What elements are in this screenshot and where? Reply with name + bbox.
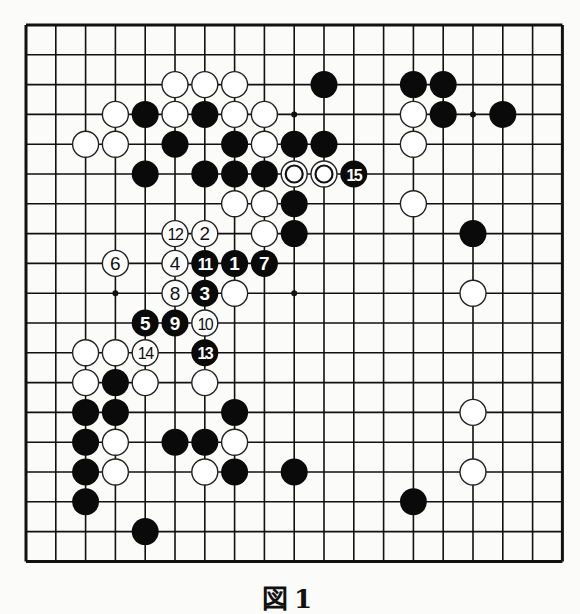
move-number: 13 — [197, 345, 213, 362]
white-stone — [251, 221, 277, 247]
black-stone — [72, 429, 99, 456]
numbered-move-6: 6 — [102, 250, 128, 276]
white-stone — [251, 131, 277, 157]
white-stone — [73, 370, 99, 396]
move-number: 7 — [259, 253, 270, 274]
move-number: 5 — [140, 313, 151, 334]
black-stone — [132, 518, 159, 545]
numbered-move-8: 8 — [162, 280, 188, 306]
white-stone — [102, 459, 128, 485]
black-stone — [221, 131, 248, 158]
black-stone — [221, 459, 248, 486]
black-stone — [191, 161, 218, 188]
numbered-move-12: 12 — [162, 221, 188, 247]
move-number: 9 — [170, 313, 181, 334]
marked-white-stone — [311, 161, 337, 187]
move-number: 3 — [200, 283, 211, 304]
numbered-move-3: 3 — [191, 280, 218, 307]
black-stone — [281, 190, 308, 217]
move-number: 1 — [229, 253, 240, 274]
white-stone — [162, 101, 188, 127]
black-stone — [430, 101, 457, 128]
numbered-move-10: 10 — [192, 310, 218, 336]
numbered-move-14: 14 — [132, 340, 158, 366]
black-stone — [400, 71, 427, 98]
white-stone — [192, 459, 218, 485]
star-point — [291, 290, 297, 296]
black-stone — [281, 220, 308, 247]
black-stone — [311, 71, 338, 98]
numbered-move-11: 11 — [191, 250, 218, 277]
move-number: 4 — [170, 253, 181, 274]
black-stone — [311, 131, 338, 158]
numbered-move-1: 1 — [221, 250, 248, 277]
star-point — [112, 290, 118, 296]
black-stone — [281, 131, 308, 158]
white-stone — [73, 340, 99, 366]
white-stone — [102, 429, 128, 455]
black-stone — [132, 101, 159, 128]
black-stone — [400, 488, 427, 515]
black-stone — [72, 459, 99, 486]
black-stone — [489, 101, 516, 128]
black-stone — [460, 220, 487, 247]
numbered-move-7: 7 — [251, 250, 278, 277]
figure-caption: 図1 — [0, 586, 580, 612]
black-stone — [102, 369, 129, 396]
black-stone — [162, 429, 189, 456]
white-stone — [222, 429, 248, 455]
white-stone — [102, 340, 128, 366]
white-stone — [460, 280, 486, 306]
numbered-move-4: 4 — [162, 250, 188, 276]
black-stone — [281, 459, 308, 486]
white-stone — [400, 131, 426, 157]
white-stone — [400, 101, 426, 127]
move-number: 12 — [168, 226, 184, 243]
move-number: 6 — [110, 253, 121, 274]
white-stone — [222, 72, 248, 98]
black-stone — [132, 161, 159, 188]
move-number: 15 — [346, 167, 362, 184]
move-number: 14 — [138, 345, 154, 362]
numbered-move-5: 5 — [132, 310, 159, 337]
white-stone — [222, 101, 248, 127]
white-stone — [251, 191, 277, 217]
white-stone — [102, 101, 128, 127]
numbered-move-15: 15 — [340, 161, 367, 188]
move-number: 11 — [198, 256, 214, 273]
black-stone — [162, 131, 189, 158]
star-point — [291, 111, 297, 117]
black-stone — [191, 101, 218, 128]
black-stone — [221, 399, 248, 426]
marked-white-stone — [281, 161, 307, 187]
star-point — [470, 111, 476, 117]
white-stone — [102, 131, 128, 157]
numbered-move-2: 2 — [192, 221, 218, 247]
white-stone — [192, 370, 218, 396]
black-stone — [251, 161, 278, 188]
white-stone — [222, 191, 248, 217]
white-stone — [192, 72, 218, 98]
move-number: 10 — [197, 316, 213, 333]
black-stone — [221, 161, 248, 188]
white-stone — [400, 191, 426, 217]
white-stone — [460, 459, 486, 485]
white-stone — [132, 370, 158, 396]
black-stone — [72, 488, 99, 515]
numbered-move-9: 9 — [162, 310, 189, 337]
white-stone — [73, 131, 99, 157]
white-stone — [460, 399, 486, 425]
white-stone — [222, 280, 248, 306]
black-stone — [72, 399, 99, 426]
black-stone — [430, 71, 457, 98]
black-stone — [191, 429, 218, 456]
white-stone — [251, 101, 277, 127]
move-number: 2 — [200, 223, 211, 244]
numbered-move-13: 13 — [191, 339, 218, 366]
move-number: 8 — [170, 283, 181, 304]
black-stone — [102, 399, 129, 426]
white-stone — [162, 72, 188, 98]
